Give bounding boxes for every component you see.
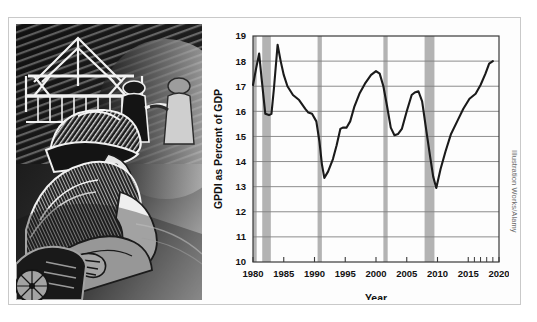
recession-band [383, 36, 387, 262]
y-tick-label: 12 [235, 206, 246, 217]
x-tick-label: 2010 [427, 268, 448, 279]
y-tick-labels: 10111213141516171819 [235, 30, 246, 267]
image-credit: Illustration Works/Alamy [510, 150, 519, 233]
y-tick-label: 10 [235, 256, 246, 267]
x-tick-marks [253, 257, 499, 262]
chart-area: 10111213141516171819 1980198519901995200… [209, 24, 509, 300]
x-tick-label: 2020 [488, 268, 509, 279]
y-tick-label: 14 [235, 156, 246, 167]
y-tick-label: 11 [236, 231, 247, 242]
y-tick-label: 19 [235, 30, 246, 41]
y-tick-label: 13 [235, 181, 246, 192]
y-tick-label: 17 [235, 81, 246, 92]
x-tick-label: 1990 [304, 268, 325, 279]
gpdi-series-line [253, 45, 493, 188]
illustration-image [16, 24, 202, 300]
plot-border-rect [253, 36, 499, 262]
y-tick-label: 16 [235, 106, 246, 117]
figure-container: 10111213141516171819 1980198519901995200… [8, 17, 521, 305]
plot-border [253, 36, 499, 262]
x-tick-label: 2015 [458, 268, 480, 279]
x-tick-label: 1985 [273, 268, 295, 279]
x-tick-label: 1980 [242, 268, 263, 279]
x-tick-label: 2005 [396, 268, 418, 279]
x-tick-labels: 198019851990199520002005201020152020 [242, 268, 509, 279]
data-line [253, 45, 493, 188]
y-tick-label: 18 [235, 56, 246, 67]
recession-band [262, 36, 271, 262]
x-tick-label: 1995 [335, 268, 357, 279]
x-tick-label: 2000 [365, 268, 386, 279]
x-axis-title: Year [365, 292, 387, 300]
y-tick-label: 15 [235, 131, 246, 142]
gridlines [253, 61, 499, 237]
y-axis-title: GPDI as Percent of GDP [212, 89, 224, 209]
recession-bands [253, 36, 434, 262]
